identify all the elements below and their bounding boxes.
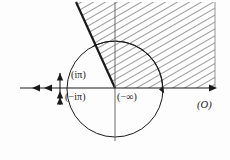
branch-cut-segment	[57, 73, 63, 105]
real-axis-left-arrowhead-inner	[44, 84, 52, 91]
label-minus-i-pi: (−iπ)	[65, 92, 86, 102]
label-i-pi: (iπ)	[71, 70, 86, 80]
complex-plane-diagram	[0, 0, 230, 160]
branch-cut-arrowhead-up	[57, 73, 63, 81]
label-minus-infinity: (−∞)	[117, 92, 137, 102]
label-origin: (O)	[197, 100, 212, 111]
figure-container: (iπ) (−iπ) (−∞) (O)	[0, 0, 230, 160]
real-axis-left-arrowhead-outer	[32, 84, 40, 91]
